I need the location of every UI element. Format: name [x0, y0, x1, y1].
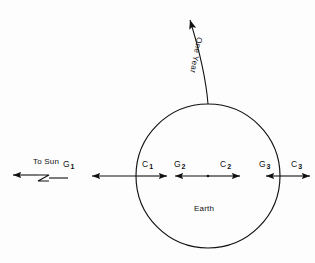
- label-c1: C1: [142, 160, 153, 169]
- label-g2-symbol: G: [174, 159, 181, 169]
- label-c2: C2: [220, 160, 231, 169]
- label-g1: G1: [63, 160, 75, 169]
- diagram-canvas: [0, 0, 315, 263]
- label-c2-subscript: 2: [227, 163, 231, 170]
- label-g2-subscript: 2: [182, 163, 186, 170]
- label-g3-symbol: G: [259, 159, 266, 169]
- label-g1-subscript: 1: [71, 163, 75, 170]
- label-c3: C3: [291, 160, 302, 169]
- label-g3-subscript: 3: [267, 163, 271, 170]
- label-c3-subscript: 3: [298, 163, 302, 170]
- label-c1-symbol: C: [142, 159, 148, 169]
- tidal-force-diagram: To Sun One Year Earth G1 C1 G2 C2 G3 C3: [0, 0, 315, 263]
- to-sun-arrow: [13, 175, 68, 181]
- label-c1-subscript: 1: [149, 163, 153, 170]
- label-c2-symbol: C: [220, 159, 226, 169]
- label-g2: G2: [174, 160, 186, 169]
- label-g1-symbol: G: [63, 159, 70, 169]
- label-g3: G3: [259, 160, 271, 169]
- earth-label: Earth: [194, 205, 214, 213]
- label-c3-symbol: C: [291, 159, 297, 169]
- line-break-zigzag: [38, 175, 49, 181]
- to-sun-label: To Sun: [33, 158, 59, 166]
